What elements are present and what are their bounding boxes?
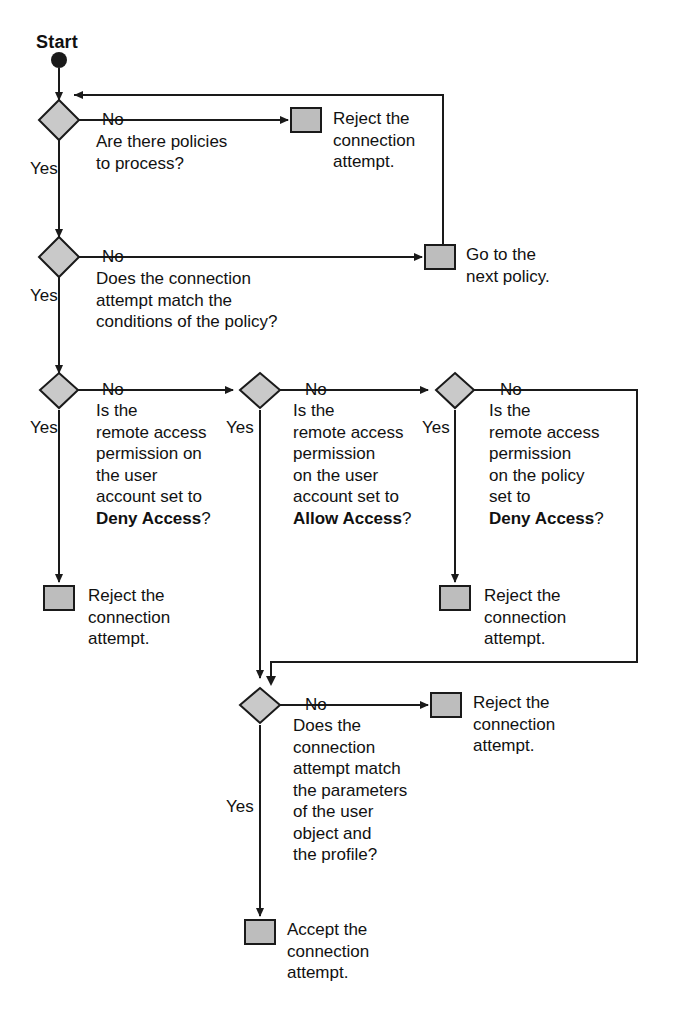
branch-label-d3-no: No — [102, 379, 124, 401]
branch-label-d4-no: No — [305, 379, 327, 401]
terminal-box-t5[interactable] — [431, 693, 461, 717]
decision-node-d3[interactable] — [40, 373, 78, 408]
decision-text-d3: Is the remote access permission on the u… — [96, 400, 211, 529]
terminal-text-t6: Accept the connection attempt. — [287, 919, 369, 984]
branch-label-d3-yes: Yes — [30, 417, 58, 439]
decision-node-d4[interactable] — [240, 373, 280, 408]
terminal-box-t4[interactable] — [440, 586, 470, 610]
terminal-text-t2: Go to the next policy. — [466, 244, 550, 287]
decision-text-d3-bold: Deny Access — [96, 509, 201, 528]
decision-text-d5-bold: Deny Access — [489, 509, 594, 528]
branch-label-d6-yes: Yes — [226, 796, 254, 818]
branch-label-d1-no: No — [102, 109, 124, 131]
terminal-box-t1[interactable] — [291, 108, 321, 132]
decision-node-d2[interactable] — [39, 237, 79, 277]
decision-text-d3-post: ? — [201, 509, 210, 528]
decision-node-d5[interactable] — [436, 373, 474, 408]
decision-text-d4: Is the remote access permission on the u… — [293, 400, 411, 529]
start-dot — [51, 52, 67, 68]
terminal-text-t5: Reject the connection attempt. — [473, 692, 555, 757]
start-label: Start — [36, 32, 78, 54]
terminal-box-t3[interactable] — [44, 586, 74, 610]
decision-text-d4-post: ? — [402, 509, 411, 528]
branch-label-d6-no: No — [305, 694, 327, 716]
branch-label-d4-yes: Yes — [226, 417, 254, 439]
branch-label-d5-no: No — [500, 379, 522, 401]
decision-text-d6: Does the connection attempt match the pa… — [293, 715, 407, 866]
branch-label-d2-yes: Yes — [30, 285, 58, 307]
decision-text-d4-bold: Allow Access — [293, 509, 402, 528]
decision-text-d1: Are there policies to process? — [96, 131, 227, 174]
decision-text-d5-post: ? — [594, 509, 603, 528]
decision-text-d2: Does the connection attempt match the co… — [96, 268, 277, 333]
terminal-text-t4: Reject the connection attempt. — [484, 585, 566, 650]
terminal-box-t2[interactable] — [425, 245, 455, 269]
terminal-text-t3: Reject the connection attempt. — [88, 585, 170, 650]
decision-text-d3-pre: Is the remote access permission on the u… — [96, 401, 207, 506]
arrowhead-loop-to-d1 — [74, 91, 83, 99]
flowchart-page: Start No Yes Are there policies to proce… — [0, 0, 673, 1027]
decision-text-d5: Is the remote access permission on the p… — [489, 400, 604, 529]
terminal-box-t6[interactable] — [245, 920, 275, 944]
branch-label-d5-yes: Yes — [422, 417, 450, 439]
branch-label-d2-no: No — [102, 246, 124, 268]
decision-text-d5-pre: Is the remote access permission on the p… — [489, 401, 600, 506]
branch-label-d1-yes: Yes — [30, 158, 58, 180]
arrowhead-d5-no-to-d6 — [266, 676, 276, 686]
decision-text-d4-pre: Is the remote access permission on the u… — [293, 401, 404, 506]
decision-node-d1[interactable] — [39, 100, 79, 140]
terminal-text-t1: Reject the connection attempt. — [333, 108, 415, 173]
decision-node-d6[interactable] — [240, 688, 280, 723]
